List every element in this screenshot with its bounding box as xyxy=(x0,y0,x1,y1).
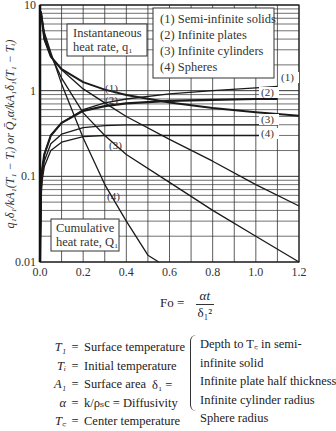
curve-label-2-instant: (2) xyxy=(105,94,118,107)
delta-items: Depth to T꜀ in semi- infinite solid Infi… xyxy=(200,335,336,428)
x-tick-label: 0.8 xyxy=(205,265,220,279)
curve-label-3-cum: (3) xyxy=(261,113,274,126)
legend-item-2: (2) Infinite plates xyxy=(160,28,247,42)
formula-denominator: δ₁² xyxy=(196,305,214,321)
curve-label-4-cum: (4) xyxy=(261,127,274,140)
y-tick-label: 0.01 xyxy=(15,255,36,269)
legend-item-3: (3) Infinite cylinders xyxy=(160,44,264,58)
curve-label-3-instant: (3) xyxy=(109,139,122,152)
curve-label-2-cum: (2) xyxy=(261,86,274,99)
definition-row: α=k/ρₛc = Diffusivity xyxy=(38,394,185,413)
cumulative-line2: heat rate, Q₁ xyxy=(56,235,118,249)
x-tick-label: 0.2 xyxy=(76,265,91,279)
curve-label-4-instant: (4) xyxy=(107,190,120,203)
x-tick-label: 0.6 xyxy=(162,265,177,279)
legend-item-4: (4) Spheres xyxy=(160,60,217,74)
definition-row: T꜀=Center temperature xyxy=(38,412,185,431)
instantaneous-line2: heat rate, q₁ xyxy=(73,40,133,54)
delta-item: Depth to T꜀ in semi- xyxy=(200,335,336,354)
chart: 0.00.20.40.60.81.01.20.010.1110 q₁δ₁/kA₁… xyxy=(0,0,334,300)
instantaneous-box: Instantaneous heat rate, q₁ xyxy=(67,24,147,56)
y-tick-label: 10 xyxy=(24,0,36,12)
formula-fraction: αt δ₁² xyxy=(196,288,214,321)
cumulative-box: Cumulative heat rate, Q₁ xyxy=(51,219,119,251)
legend: (1) Semi-infinite solids (2) Infinite pl… xyxy=(153,8,276,78)
x-tick-label: 1.2 xyxy=(292,265,307,279)
delta-item: infinite solid xyxy=(200,354,336,373)
definition-row: Tᵢ=Initial temperature xyxy=(38,357,185,376)
curve-label-1-cum: (1) xyxy=(281,71,294,84)
delta-symbol: δ₁ = xyxy=(152,378,172,393)
legend-item-1: (1) Semi-infinite solids xyxy=(160,12,276,26)
definition-row: T₁=Surface temperature xyxy=(38,338,185,357)
instantaneous-line1: Instantaneous xyxy=(73,26,142,40)
formula-numerator: αt xyxy=(196,288,214,305)
delta-item: Infinite plate half thickness xyxy=(200,372,336,391)
y-tick-label: 0.1 xyxy=(21,169,36,183)
delta-item: Sphere radius xyxy=(200,409,336,428)
cumulative-line1: Cumulative xyxy=(56,221,115,235)
brace xyxy=(190,335,199,411)
delta-item: Infinite cylinder radius xyxy=(200,391,336,410)
x-tick-label: 1.0 xyxy=(248,265,263,279)
y-tick-label: 1 xyxy=(30,84,36,98)
x-tick-label: 0.4 xyxy=(119,265,134,279)
formula-lhs: Fo = xyxy=(160,295,184,310)
y-axis-label: q₁δ₁/kA₁(T₁ − Tᵢ) or Q̄₁α/kA₁δ₁(T₁ − Tᵢ) xyxy=(3,40,17,229)
fourier-number-formula: Fo = αt δ₁² xyxy=(160,288,214,321)
